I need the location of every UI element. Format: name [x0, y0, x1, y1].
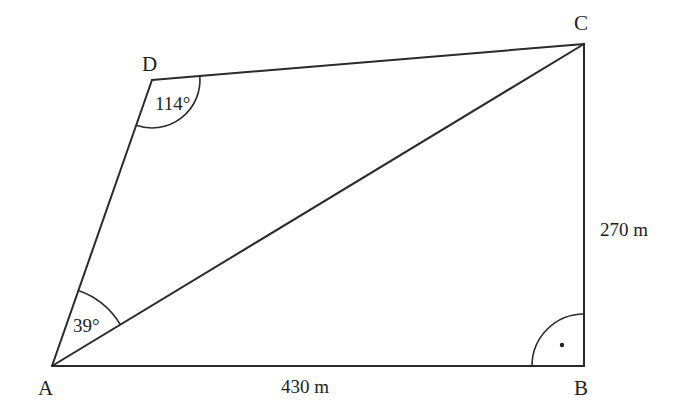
quadrilateral-diagram: A B C D 430 m 270 m 114° 39°	[0, 0, 693, 418]
right-angle-dot	[560, 343, 564, 347]
vertex-label-a: A	[38, 376, 54, 400]
vertex-label-d: D	[142, 52, 157, 76]
right-angle-arc-b	[532, 314, 584, 366]
edge-da	[52, 80, 152, 366]
side-length-bc: 270 m	[600, 219, 648, 240]
angle-label-a: 39°	[73, 315, 100, 336]
vertex-label-c: C	[574, 11, 588, 35]
side-length-ab: 430 m	[281, 376, 329, 397]
diagonal-ac	[52, 44, 584, 366]
angle-label-d: 114°	[155, 93, 190, 114]
edge-cd	[152, 44, 584, 80]
vertex-label-b: B	[574, 376, 588, 400]
